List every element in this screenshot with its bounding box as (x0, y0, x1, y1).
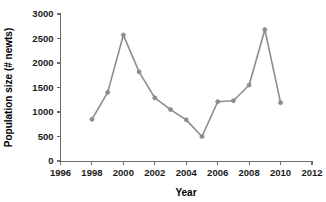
x-axis-tick-label: 2004 (176, 167, 198, 178)
x-axis-tick-label: 2010 (270, 167, 291, 178)
x-axis-title: Year (175, 187, 196, 198)
x-axis-tick-label: 1996 (50, 167, 71, 178)
x-axis-tick-label: 2006 (207, 167, 228, 178)
chart-canvas: 050010001500200025003000 199619982000200… (0, 0, 326, 202)
x-axis-tick-label: 2000 (113, 167, 134, 178)
x-axis-tick-label: 2012 (301, 167, 322, 178)
data-point-marker (247, 83, 251, 87)
y-axis-tick-label: 2500 (32, 33, 53, 44)
data-point-marker (168, 107, 172, 111)
x-axis-tick-label: 2002 (144, 167, 165, 178)
data-point-marker (106, 90, 110, 94)
y-axis-tick-label: 1000 (32, 106, 53, 117)
y-axis: 050010001500200025003000 (32, 8, 60, 166)
y-axis-tick-label: 1500 (32, 82, 53, 93)
x-axis-tick-label: 2008 (239, 167, 260, 178)
y-axis-tick-label: 500 (38, 131, 54, 142)
y-axis-title: Population size (# newts) (3, 28, 14, 147)
line-chart: 050010001500200025003000 199619982000200… (0, 0, 326, 202)
data-point-marker (121, 33, 125, 37)
data-point-marker (153, 96, 157, 100)
data-point-marker (263, 28, 267, 32)
y-axis-tick-label: 0 (48, 155, 53, 166)
y-axis-tick-label: 3000 (32, 8, 53, 19)
y-axis-ticks: 050010001500200025003000 (32, 8, 60, 166)
x-axis-tick-label: 1998 (81, 167, 102, 178)
data-point-marker (184, 118, 188, 122)
x-axis: 199619982000200220042006200820102012 (50, 161, 323, 178)
data-point-marker (231, 99, 235, 103)
data-point-marker (278, 101, 282, 105)
data-point-marker (216, 100, 220, 104)
data-point-marker (137, 70, 141, 74)
data-point-marker (200, 134, 204, 138)
y-axis-tick-label: 2000 (32, 57, 53, 68)
data-point-marker (90, 117, 94, 121)
data-series-group (90, 28, 283, 139)
x-axis-ticks: 199619982000200220042006200820102012 (50, 161, 323, 178)
